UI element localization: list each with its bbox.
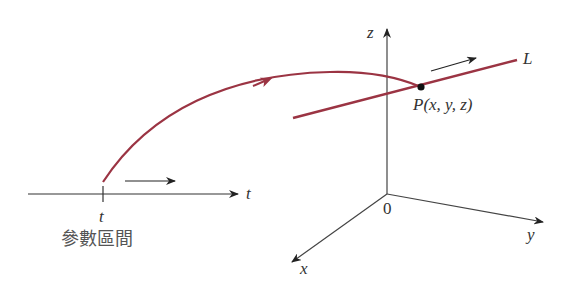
line-direction-arrow-icon	[431, 58, 476, 71]
param-axis-label: t	[246, 185, 251, 202]
x-axis	[292, 194, 387, 262]
mapping-curve	[103, 72, 421, 182]
x-axis-label: x	[300, 260, 308, 277]
line-label: L	[523, 50, 532, 67]
y-axis-label: y	[527, 226, 535, 243]
line-L	[293, 60, 517, 118]
parameter-axis	[28, 186, 238, 202]
origin-label: 0	[383, 200, 392, 217]
point-label: P(x, y, z)	[413, 96, 472, 113]
z-axis-label: z	[367, 24, 374, 41]
tick-label: t	[99, 208, 104, 225]
parametric-line-diagram: t t 參數區間 z y x 0 L P(x, y, z)	[0, 0, 575, 291]
point-P	[417, 83, 424, 90]
y-axis	[387, 194, 543, 222]
parameter-interval-caption: 參數區間	[61, 230, 133, 248]
